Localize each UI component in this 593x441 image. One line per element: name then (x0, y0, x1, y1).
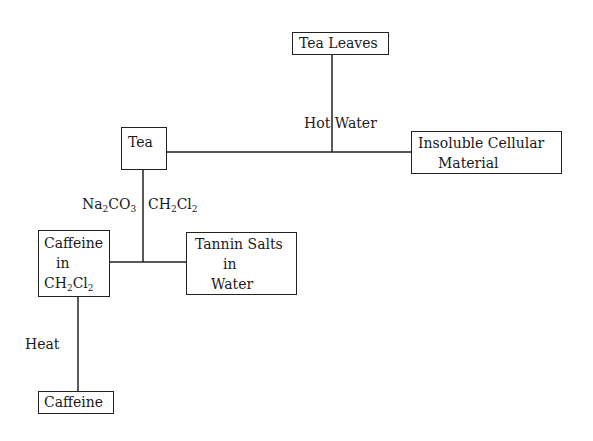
node-tea: Tea (121, 127, 167, 170)
edge-label-heat: Heat (25, 335, 59, 353)
node-label-line-3: CH2Cl2 (44, 273, 109, 293)
formula-subscript: 2 (88, 283, 94, 293)
node-caffeine: Caffeine (38, 391, 114, 414)
formula-part: Na (82, 196, 103, 212)
formula-part: CH (44, 275, 67, 291)
node-caffeine-in-ch2cl2: Caffeine in CH2Cl2 (38, 230, 110, 297)
node-label-line-2: in (44, 253, 109, 273)
edge-label-na2co3: Na2CO3 (82, 195, 136, 213)
node-label: Caffeine (44, 392, 113, 412)
node-label: Tea (128, 132, 166, 152)
formula-part: Cl (177, 196, 192, 212)
formula-subscript: 2 (192, 204, 198, 214)
node-tannin-salts-in-water: Tannin Salts in Water (186, 232, 297, 295)
formula-part: CH (148, 196, 171, 212)
node-label-line-2: in (195, 254, 296, 274)
edge-label-hot-water: Hot Water (304, 114, 377, 132)
formula-part: CO (108, 196, 130, 212)
node-tea-leaves: Tea Leaves (292, 32, 389, 55)
formula-subscript: 3 (131, 204, 137, 214)
node-label: Tea Leaves (299, 33, 388, 53)
node-label-line-1: Tannin Salts (195, 234, 296, 254)
node-label-line-1: Caffeine (44, 233, 109, 253)
node-insoluble-cellular-material: Insoluble Cellular Material (411, 131, 562, 174)
node-label-line-1: Insoluble Cellular (418, 133, 561, 153)
formula-part: Cl (73, 275, 88, 291)
edge-label-ch2cl2: CH2Cl2 (148, 195, 198, 213)
node-label-line-2: Material (418, 153, 561, 173)
connector-lines (0, 0, 593, 441)
diagram-canvas: Tea Leaves Hot Water Tea Insoluble Cellu… (0, 0, 593, 441)
node-label-line-3: Water (195, 274, 296, 294)
